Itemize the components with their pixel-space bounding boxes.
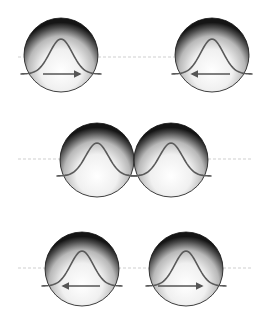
soliton-collision-diagram [0,0,265,322]
sphere [149,232,223,306]
sphere [175,18,249,92]
spheres [24,18,249,306]
sphere [45,232,119,306]
sphere [134,123,208,197]
sphere [60,123,134,197]
sphere [24,18,98,92]
